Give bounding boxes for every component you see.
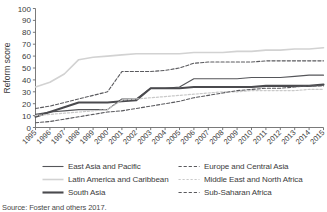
legend-swatch-icon xyxy=(42,162,64,171)
legend-item-south-asia[interactable]: South Asia xyxy=(42,188,178,197)
y-axis-title: Reform score xyxy=(2,42,12,93)
x-tick-label: 1997 xyxy=(49,128,67,146)
x-tick-label: 2008 xyxy=(207,128,225,146)
x-tick-label: 2005 xyxy=(164,128,182,146)
x-tick-label: 2015 xyxy=(308,128,326,146)
y-tick-label: 20 xyxy=(22,100,31,109)
source-note: Source: Foster and others 2017. xyxy=(2,203,106,212)
legend-swatch-icon xyxy=(178,175,200,184)
x-tick-label: 1998 xyxy=(63,128,81,146)
legend-swatch-icon xyxy=(178,162,200,171)
x-tick-label: 1999 xyxy=(78,128,96,146)
chart-legend: East Asia and PacificEurope and Central … xyxy=(42,160,327,199)
y-tick-label: 80 xyxy=(22,28,31,37)
x-tick-label: 2011 xyxy=(251,128,269,146)
series-line-sub-saharan-africa xyxy=(36,86,324,123)
x-tick-label: 2004 xyxy=(150,128,168,146)
legend-swatch-icon xyxy=(178,188,200,197)
legend-swatch-icon xyxy=(42,175,64,184)
y-tick-label: 40 xyxy=(22,76,31,85)
legend-swatch-icon xyxy=(42,188,64,197)
legend-item-label: Middle East and North Africa xyxy=(204,175,303,184)
legend-item-label: South Asia xyxy=(68,188,105,197)
x-tick-label: 2014 xyxy=(294,128,312,146)
series-line-latin-america-and-caribbean xyxy=(36,48,324,87)
legend-item-label: East Asia and Pacific xyxy=(68,162,141,171)
x-tick-label: 2000 xyxy=(92,128,110,146)
figure-container: 0102030405060708090100Reform score199519… xyxy=(0,0,327,212)
x-tick-label: 1996 xyxy=(35,128,53,146)
x-tick-label: 2003 xyxy=(135,128,153,146)
x-tick-label: 1995 xyxy=(20,128,38,146)
legend-item-label: Sub-Saharan Africa xyxy=(204,188,272,197)
legend-item-middle-east-and-north-africa[interactable]: Middle East and North Africa xyxy=(178,175,327,184)
x-tick-label: 2009 xyxy=(222,128,240,146)
legend-item-sub-saharan-africa[interactable]: Sub-Saharan Africa xyxy=(178,188,327,197)
series-line-south-asia xyxy=(36,85,324,117)
x-tick-label: 2013 xyxy=(279,128,297,146)
legend-item-latin-america-and-caribbean[interactable]: Latin America and Caribbean xyxy=(42,175,178,184)
legend-item-label: Latin America and Caribbean xyxy=(68,175,168,184)
y-tick-label: 100 xyxy=(18,5,32,14)
x-tick-label: 2010 xyxy=(236,128,254,146)
y-tick-label: 10 xyxy=(22,112,31,121)
y-tick-label: 50 xyxy=(22,64,31,73)
x-tick-label: 2006 xyxy=(179,128,197,146)
legend-item-east-asia-and-pacific[interactable]: East Asia and Pacific xyxy=(42,162,178,171)
x-tick-label: 2007 xyxy=(193,128,211,146)
x-tick-label: 2001 xyxy=(107,128,125,146)
x-tick-label: 2002 xyxy=(121,128,139,146)
y-tick-label: 70 xyxy=(22,40,31,49)
y-tick-label: 90 xyxy=(22,16,31,25)
legend-item-europe-and-central-asia[interactable]: Europe and Central Asia xyxy=(178,162,327,171)
y-tick-label: 30 xyxy=(22,88,31,97)
legend-item-label: Europe and Central Asia xyxy=(204,162,288,171)
series-line-east-asia-and-pacific xyxy=(36,75,324,114)
y-tick-label: 60 xyxy=(22,52,31,61)
x-tick-label: 2012 xyxy=(265,128,283,146)
